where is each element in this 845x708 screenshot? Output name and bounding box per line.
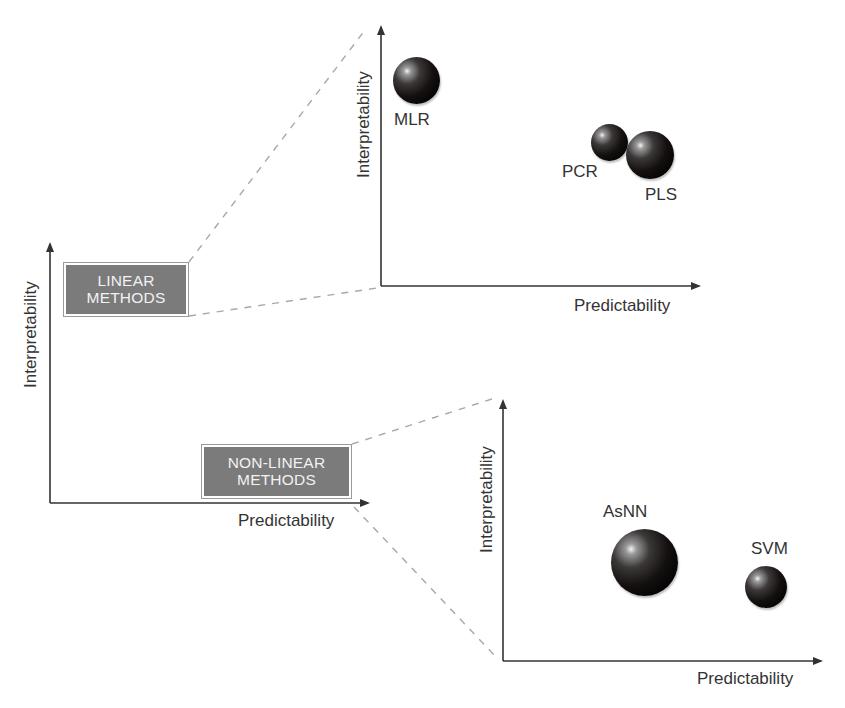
main-x-axis-label: Predictability	[238, 512, 334, 529]
nonlinear-axes	[503, 401, 821, 661]
nonlinear-methods-box: NON-LINEAR METHODS	[201, 444, 352, 499]
pls-label: PLS	[645, 186, 677, 203]
pcr-sphere	[591, 124, 628, 161]
asnn-label: AsNN	[603, 503, 647, 520]
pls-sphere	[626, 131, 674, 179]
linear-y-axis-label: Interpretability	[355, 71, 372, 178]
zoom-connector-lines	[189, 30, 497, 658]
nonlinear-methods-line1: NON-LINEAR	[228, 455, 326, 472]
mlr-sphere	[393, 57, 440, 104]
nonlinear-y-axis-label: Interpretability	[478, 446, 495, 553]
nonlinear-x-axis-label: Predictability	[697, 670, 793, 687]
linear-methods-line1: LINEAR	[97, 273, 154, 290]
linear-methods-box: LINEAR METHODS	[63, 262, 189, 317]
nonlinear-methods-line2: METHODS	[237, 472, 316, 489]
diagram-lines	[0, 0, 845, 708]
asnn-sphere	[611, 529, 678, 596]
linear-methods-line2: METHODS	[87, 290, 166, 307]
pcr-label: PCR	[562, 163, 598, 180]
main-y-axis-label: Interpretability	[22, 281, 39, 388]
svm-sphere	[745, 566, 787, 608]
mlr-label: MLR	[394, 111, 430, 128]
linear-x-axis-label: Predictability	[574, 297, 670, 314]
diagram-canvas: Interpretability Predictability LINEAR M…	[0, 0, 845, 708]
svm-label: SVM	[751, 540, 788, 557]
